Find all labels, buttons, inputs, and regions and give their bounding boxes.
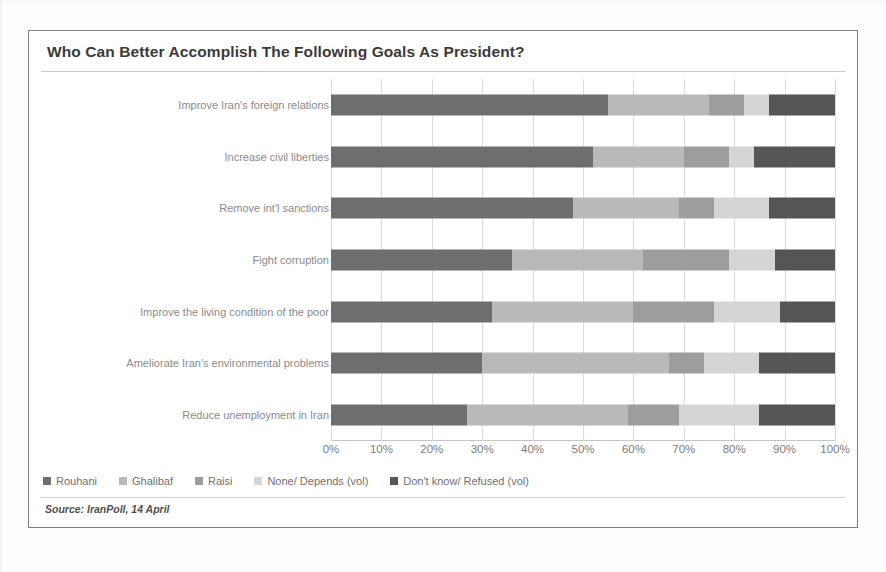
square-swatch-icon bbox=[195, 477, 203, 485]
category-label: Ameliorate Iran's environmental problems bbox=[29, 357, 329, 369]
bar-segment[interactable] bbox=[331, 146, 593, 167]
category-label: Reduce unemployment in Iran bbox=[29, 409, 329, 421]
bar-segment[interactable] bbox=[331, 353, 482, 374]
bar-segment[interactable] bbox=[628, 405, 678, 426]
x-tick-label: 60% bbox=[622, 443, 645, 455]
category-label: Fight corruption bbox=[29, 254, 329, 266]
bar-segment[interactable] bbox=[679, 198, 714, 219]
bar-row[interactable] bbox=[331, 353, 835, 374]
category-axis-labels: Improve Iran's foreign relationsIncrease… bbox=[29, 79, 329, 441]
bar-segment[interactable] bbox=[643, 250, 729, 271]
bar-segment[interactable] bbox=[769, 198, 835, 219]
square-swatch-icon bbox=[43, 477, 51, 485]
bar-segment[interactable] bbox=[684, 146, 729, 167]
x-tick-label: 0% bbox=[323, 443, 340, 455]
legend-label: None/ Depends (vol) bbox=[267, 475, 368, 487]
bar-segment[interactable] bbox=[593, 146, 684, 167]
bar-segment[interactable] bbox=[714, 198, 769, 219]
legend-item[interactable]: Don't know/ Refused (vol) bbox=[390, 475, 529, 487]
plot-area bbox=[331, 79, 835, 441]
bar-segment[interactable] bbox=[704, 353, 759, 374]
square-swatch-icon bbox=[119, 477, 127, 485]
legend-label: Don't know/ Refused (vol) bbox=[403, 475, 529, 487]
x-axis-tick-labels: 0%10%20%30%40%50%60%70%80%90%100% bbox=[331, 443, 835, 465]
bar-segment[interactable] bbox=[633, 301, 714, 322]
x-tick-label: 20% bbox=[420, 443, 443, 455]
legend-item[interactable]: None/ Depends (vol) bbox=[254, 475, 368, 487]
bar-row[interactable] bbox=[331, 250, 835, 271]
x-tick-label: 100% bbox=[820, 443, 849, 455]
bar-segment[interactable] bbox=[679, 405, 760, 426]
bar-segment[interactable] bbox=[714, 301, 780, 322]
square-swatch-icon bbox=[390, 477, 398, 485]
bar-segment[interactable] bbox=[482, 353, 668, 374]
bar-segment[interactable] bbox=[512, 250, 643, 271]
source-note: Source: IranPoll, 14 April bbox=[45, 503, 169, 515]
category-label: Remove int'l sanctions bbox=[29, 202, 329, 214]
bar-segment[interactable] bbox=[775, 250, 835, 271]
bar-row[interactable] bbox=[331, 198, 835, 219]
bar-segment[interactable] bbox=[608, 94, 709, 115]
bar-segment[interactable] bbox=[744, 94, 769, 115]
chart-legend: RouhaniGhalibafRaisiNone/ Depends (vol)D… bbox=[43, 471, 843, 491]
bar-segment[interactable] bbox=[331, 198, 573, 219]
bar-segment[interactable] bbox=[331, 301, 492, 322]
bar-segment[interactable] bbox=[729, 146, 754, 167]
bar-segment[interactable] bbox=[729, 250, 774, 271]
plot-wrapper: Improve Iran's foreign relationsIncrease… bbox=[29, 79, 859, 479]
category-label: Improve the living condition of the poor bbox=[29, 306, 329, 318]
bar-row[interactable] bbox=[331, 94, 835, 115]
source-divider bbox=[41, 497, 845, 498]
x-tick-label: 50% bbox=[571, 443, 594, 455]
x-tick-label: 10% bbox=[370, 443, 393, 455]
bar-row[interactable] bbox=[331, 301, 835, 322]
bar-row[interactable] bbox=[331, 146, 835, 167]
square-swatch-icon bbox=[254, 477, 262, 485]
x-tick-label: 70% bbox=[672, 443, 695, 455]
bar-segment[interactable] bbox=[331, 250, 512, 271]
bar-row[interactable] bbox=[331, 405, 835, 426]
legend-label: Rouhani bbox=[56, 475, 97, 487]
bar-segment[interactable] bbox=[492, 301, 633, 322]
gridline-100 bbox=[835, 79, 836, 441]
x-tick-label: 30% bbox=[471, 443, 494, 455]
legend-item[interactable]: Rouhani bbox=[43, 475, 97, 487]
x-tick-label: 40% bbox=[521, 443, 544, 455]
bar-segment[interactable] bbox=[709, 94, 744, 115]
bar-segment[interactable] bbox=[754, 146, 835, 167]
bar-segment[interactable] bbox=[759, 405, 835, 426]
legend-item[interactable]: Ghalibaf bbox=[119, 475, 173, 487]
title-divider bbox=[41, 71, 845, 72]
chart-title: Who Can Better Accomplish The Following … bbox=[47, 43, 525, 61]
bar-segment[interactable] bbox=[331, 405, 467, 426]
category-label: Improve Iran's foreign relations bbox=[29, 99, 329, 111]
bar-segment[interactable] bbox=[780, 301, 835, 322]
bar-segment[interactable] bbox=[467, 405, 628, 426]
legend-item[interactable]: Raisi bbox=[195, 475, 232, 487]
bar-segment[interactable] bbox=[573, 198, 679, 219]
legend-label: Raisi bbox=[208, 475, 232, 487]
bar-segment[interactable] bbox=[669, 353, 704, 374]
bar-segment[interactable] bbox=[331, 94, 608, 115]
screenshot-page: Who Can Better Accomplish The Following … bbox=[0, 0, 886, 572]
x-tick-label: 80% bbox=[723, 443, 746, 455]
bar-segment[interactable] bbox=[769, 94, 835, 115]
x-tick-label: 90% bbox=[773, 443, 796, 455]
legend-label: Ghalibaf bbox=[132, 475, 173, 487]
category-label: Increase civil liberties bbox=[29, 151, 329, 163]
bar-segment[interactable] bbox=[759, 353, 835, 374]
chart-container: Who Can Better Accomplish The Following … bbox=[28, 30, 858, 528]
